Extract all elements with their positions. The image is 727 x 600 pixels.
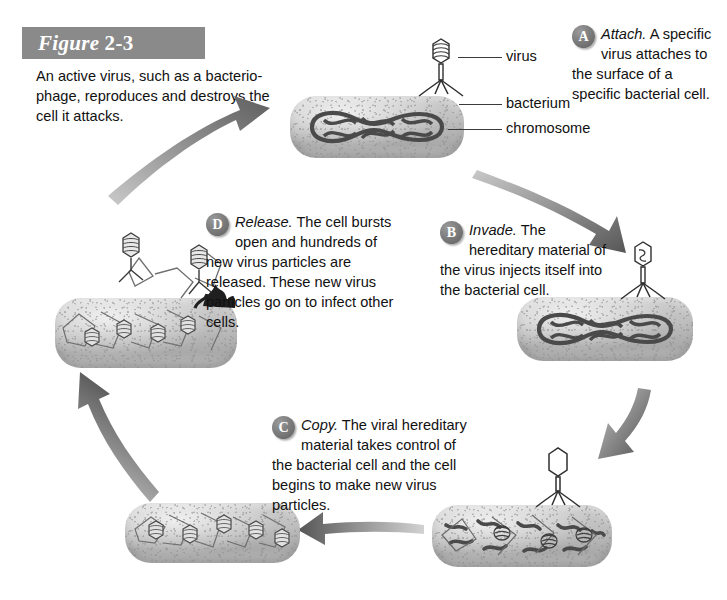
label-bacterium: bacterium: [506, 95, 570, 112]
phage-injecting: [617, 235, 679, 305]
phage-attached: [415, 32, 477, 102]
step-badge-c: C: [272, 416, 295, 439]
step-release: D Release. The cell bursts open and hund…: [206, 212, 402, 332]
step-invade-verb: Invade.: [469, 222, 517, 238]
arrow-assemble-to-release: [78, 372, 159, 502]
chromosome-attach: [290, 96, 464, 158]
step-attach: A Attach. A specific virus attaches to t…: [572, 24, 724, 104]
leader-line-chromosome: [448, 129, 502, 130]
leader-line-virus: [458, 57, 502, 58]
step-release-verb: Release.: [235, 214, 293, 230]
step-invade: B Invade. The hereditary material of the…: [440, 220, 608, 300]
step-attach-verb: Attach.: [601, 26, 646, 42]
step-badge-a: A: [572, 25, 595, 48]
step-copy-text: Copy. The viral hereditary material take…: [272, 417, 467, 513]
arrow-invade-to-copy: [598, 388, 651, 459]
step-invade-text: Invade. The hereditary material of the v…: [440, 222, 606, 298]
chromosome-invade: [517, 297, 693, 361]
step-release-text: Release. The cell bursts open and hundre…: [206, 214, 393, 330]
figure-page: Figure 2-3 An active virus, such as a ba…: [0, 0, 727, 600]
label-virus: virus: [506, 48, 537, 65]
phage-empty-copy: [532, 443, 594, 513]
step-copy: C Copy. The viral hereditary material ta…: [272, 415, 474, 515]
arrow-copy-to-assemble: [298, 512, 424, 545]
step-release-description: The cell bursts open and hundreds of new…: [206, 214, 393, 330]
step-copy-verb: Copy.: [301, 417, 338, 433]
step-badge-b: B: [440, 221, 463, 244]
step-invade-description: The hereditary material of the virus inj…: [440, 222, 606, 298]
leader-line-bacterium: [459, 104, 502, 105]
label-chromosome: chromosome: [506, 120, 590, 137]
arrow-release-to-attach: [108, 96, 270, 205]
bacterium-cell-attach: [290, 96, 464, 158]
bacterium-cell-invade: [517, 297, 693, 361]
step-badge-d: D: [206, 213, 229, 236]
